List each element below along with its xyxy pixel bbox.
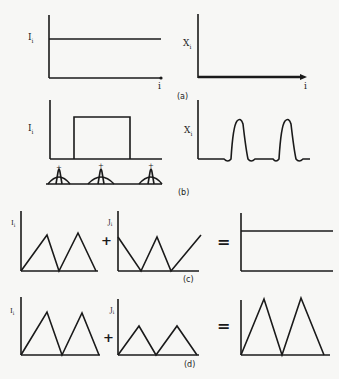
svg-text:+: + (56, 164, 62, 172)
panel-a-left-plot (49, 15, 163, 80)
panel-d-operand2-ylabel: Ji (110, 307, 114, 315)
panel-b-right-ylabel: Xi (184, 126, 192, 137)
panel-c-plus-sign: + (101, 233, 112, 248)
svg-text:+: + (148, 162, 154, 170)
panel-a-right-plot (198, 14, 307, 80)
panel-d-operand2-plot (118, 299, 199, 355)
panel-b-right-plot (198, 100, 310, 161)
panel-b-caption: (b) (178, 188, 189, 197)
panel-a-left-ylabel: Ii (28, 33, 33, 44)
panel-d-operand1-ylabel: Ii (10, 308, 14, 316)
panel-b-left-plot (50, 100, 162, 159)
panel-d-result-plot (241, 298, 330, 355)
panel-d-caption: (d) (184, 360, 195, 369)
panel-a-caption: (a) (177, 92, 188, 101)
panel-c-equals-sign: = (217, 232, 230, 251)
diagram-canvas: + + + (0, 0, 339, 379)
panel-c-caption: (c) (183, 275, 194, 284)
panel-c-result-plot (241, 213, 333, 271)
svg-text:+: + (98, 162, 104, 170)
panel-c-operand2-ylabel: Ji (108, 219, 112, 227)
receptive-fields: + + + (46, 162, 162, 184)
panel-d-plus-sign: + (103, 330, 114, 345)
panel-a-right-xlabel: i (304, 82, 307, 91)
panel-c-operand2-plot (118, 211, 201, 271)
panel-a-right-ylabel: Xi (183, 39, 191, 50)
panel-d-operand1-plot (21, 297, 100, 355)
panel-b-left-ylabel: Ii (28, 124, 33, 135)
panel-a-left-xlabel: i (158, 82, 161, 91)
panel-c-operand1-plot (21, 211, 98, 271)
panel-d-equals-sign: = (217, 316, 230, 335)
panel-c-operand1-ylabel: Ii (11, 220, 15, 228)
